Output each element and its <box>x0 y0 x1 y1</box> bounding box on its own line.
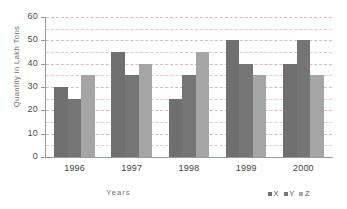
legend-swatch-icon <box>299 192 303 196</box>
gridline <box>46 40 332 41</box>
bar-x-2000 <box>283 64 297 157</box>
legend-swatch-icon <box>284 192 288 196</box>
legend-label: Y <box>289 190 294 198</box>
gridline <box>46 52 332 53</box>
y-tick-label: 20 <box>14 105 38 114</box>
y-tick-label: 30 <box>14 82 38 91</box>
bar-z-1997 <box>139 64 153 157</box>
y-tick-label-text: 50 <box>14 35 38 44</box>
bar-z-1996 <box>81 75 95 157</box>
y-tick-label: 10 <box>14 129 38 138</box>
bar-x-1996 <box>54 87 68 157</box>
bar-y-1996 <box>68 99 82 157</box>
y-tick-mark <box>41 110 45 111</box>
legend-label: X <box>274 190 279 198</box>
plot-area <box>46 17 332 157</box>
bar-z-1999 <box>253 75 267 157</box>
chart-screenshot: Quantity in Lakh Tons 0102030405060 1996… <box>0 0 347 209</box>
bar-y-1997 <box>125 75 139 157</box>
chart-legend: XYZ <box>268 190 310 198</box>
bar-x-1997 <box>111 52 125 157</box>
legend-item-x[interactable]: X <box>268 190 279 198</box>
y-tick-mark <box>41 157 45 158</box>
y-tick-label: 0 <box>14 152 38 161</box>
y-tick-label: 50 <box>14 35 38 44</box>
y-tick-label-text: 0 <box>14 152 38 161</box>
y-tick-mark <box>41 87 45 88</box>
bar-y-1998 <box>182 75 196 157</box>
y-tick-label: 60 <box>14 12 38 21</box>
bar-z-2000 <box>310 75 324 157</box>
grouped-bar-chart: Quantity in Lakh Tons 0102030405060 1996… <box>0 0 347 209</box>
x-category-label-1997: 1997 <box>103 163 160 173</box>
x-category-label-1999: 1999 <box>218 163 275 173</box>
y-tick-label: 40 <box>14 59 38 68</box>
x-axis-line <box>45 157 333 158</box>
bar-y-1999 <box>239 64 253 157</box>
y-tick-mark <box>41 134 45 135</box>
bar-x-1998 <box>169 99 183 157</box>
y-tick-label-text: 30 <box>14 82 38 91</box>
x-category-label-1996: 1996 <box>46 163 103 173</box>
legend-item-z[interactable]: Z <box>299 190 309 198</box>
y-tick-mark <box>41 64 45 65</box>
legend-label: Z <box>305 190 310 198</box>
x-category-label-1998: 1998 <box>160 163 217 173</box>
legend-swatch-icon <box>268 192 272 196</box>
y-tick-mark <box>41 40 45 41</box>
y-tick-label-text: 40 <box>14 59 38 68</box>
bar-z-1998 <box>196 52 210 157</box>
bar-x-1999 <box>226 40 240 157</box>
bar-y-2000 <box>297 40 311 157</box>
y-tick-label-text: 10 <box>14 129 38 138</box>
y-tick-label-text: 60 <box>14 12 38 21</box>
legend-item-y[interactable]: Y <box>284 190 295 198</box>
y-tick-label-text: 20 <box>14 105 38 114</box>
y-tick-mark <box>41 17 45 18</box>
gridline <box>46 29 332 30</box>
x-category-label-2000: 2000 <box>275 163 332 173</box>
gridline <box>46 17 332 18</box>
